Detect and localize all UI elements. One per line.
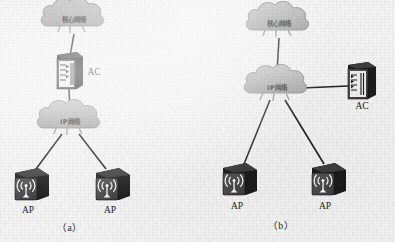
device-label-ap-right-a: AP — [104, 206, 116, 216]
link-ip-to-ap-left-a — [36, 134, 62, 169]
wireless-ap-icon-left-b — [223, 163, 257, 195]
wireless-ap-icon-left-a — [15, 168, 49, 200]
wireless-ap-icon-right-b — [312, 163, 346, 195]
panel-b-links — [244, 38, 348, 164]
device-label-ap-left-b: AP — [231, 202, 243, 212]
cloud-label-core-b: 核心网络 — [267, 21, 292, 27]
panel-caption-b: （b） — [268, 222, 295, 232]
switch-icon-ac-b — [348, 62, 376, 99]
cloud-label-core-a: 核心网络 — [62, 17, 87, 23]
wireless-ap-icon-right-a — [96, 168, 130, 200]
device-label-ap-left-a: AP — [22, 206, 34, 216]
device-label-ac-b: AC — [355, 102, 368, 112]
cloud-label-ip-a: IP网络 — [60, 119, 80, 125]
cloud-icon-ip-b — [244, 64, 306, 101]
cloud-label-ip-b: IP网络 — [267, 85, 287, 91]
panel-caption-a: （a） — [57, 224, 83, 234]
link-ip-to-ap-left-b — [244, 100, 270, 164]
link-ip-to-ap-right-a — [79, 134, 106, 169]
switch-icon-ac-a — [57, 52, 83, 89]
link-ip-to-ap-right-b — [285, 100, 324, 164]
device-label-ap-right-b: AP — [319, 202, 331, 212]
link-ip-to-ac-b — [302, 86, 348, 88]
device-label-ac-a: AC — [87, 68, 100, 78]
figure-canvas: 核心网络 AC IP网络 AP AP （a） 核心网络 IP网络 AC AP A… — [0, 0, 395, 242]
